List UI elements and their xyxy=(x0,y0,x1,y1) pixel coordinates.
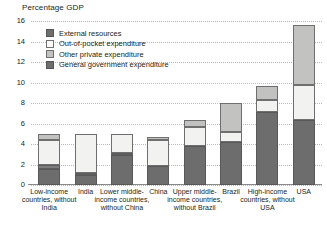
bar-segment xyxy=(111,134,133,153)
bar-7 xyxy=(256,86,278,185)
bar-segment xyxy=(293,120,315,185)
y-tick-label: 16 xyxy=(7,17,25,24)
bar-segment xyxy=(256,112,278,185)
gridline xyxy=(31,83,322,84)
legend-swatch-oop xyxy=(46,40,54,48)
bar-segment xyxy=(184,127,206,146)
bar-segment xyxy=(147,166,169,185)
bar-segment xyxy=(220,103,242,132)
legend-label: Out-of-pocket expenditure xyxy=(59,39,146,48)
y-tick-label: 12 xyxy=(7,58,25,65)
chart-container: Percentage GDP 0246810121416 Low-income … xyxy=(0,0,327,233)
x-tick-label: USA xyxy=(276,188,327,196)
y-tick-label: 6 xyxy=(7,120,25,127)
legend-item: External resources xyxy=(46,28,169,39)
bar-segment xyxy=(184,146,206,185)
legend-item: Other private expenditure xyxy=(46,49,169,60)
legend-item: General government expenditure xyxy=(46,60,169,71)
bar-segment xyxy=(75,175,97,185)
bar-segment xyxy=(111,155,133,185)
y-tick-label: 8 xyxy=(7,99,25,106)
bar-6 xyxy=(220,103,242,185)
x-axis-tick-labels: Low-income countries, without IndiaIndia… xyxy=(31,188,322,233)
y-tick-label: 14 xyxy=(7,38,25,45)
y-tick-label: 10 xyxy=(7,79,25,86)
bar-segment xyxy=(256,86,278,100)
gridline xyxy=(31,185,322,186)
bar-4 xyxy=(147,137,169,185)
y-axis-title: Percentage GDP xyxy=(22,3,84,12)
legend-label: External resources xyxy=(59,29,122,38)
legend-label: Other private expenditure xyxy=(59,50,144,59)
bar-segment xyxy=(38,140,60,165)
y-tick-label: 0 xyxy=(7,181,25,188)
bar-segment xyxy=(75,134,97,172)
bar-1 xyxy=(38,134,60,185)
bar-2 xyxy=(75,134,97,185)
bar-segment xyxy=(147,140,169,166)
bar-segment xyxy=(220,142,242,185)
legend-swatch-gov xyxy=(46,61,54,69)
legend-swatch-ext xyxy=(46,29,54,37)
legend-item: Out-of-pocket expenditure xyxy=(46,39,169,50)
y-tick-label: 4 xyxy=(7,140,25,147)
bar-segment xyxy=(38,169,60,185)
chart-legend: External resourcesOut-of-pocket expendit… xyxy=(46,28,169,70)
bar-8 xyxy=(293,25,315,185)
bar-segment xyxy=(293,85,315,121)
y-tick-label: 2 xyxy=(7,161,25,168)
bar-5 xyxy=(184,120,206,185)
bar-segment xyxy=(293,25,315,84)
bar-segment xyxy=(256,100,278,112)
bar-segment xyxy=(220,132,242,142)
gridline xyxy=(31,21,322,22)
bar-3 xyxy=(111,134,133,185)
legend-swatch-oth xyxy=(46,50,54,58)
legend-label: General government expenditure xyxy=(59,60,169,69)
